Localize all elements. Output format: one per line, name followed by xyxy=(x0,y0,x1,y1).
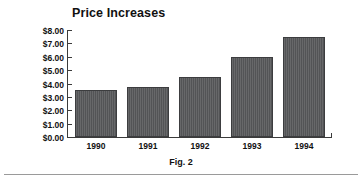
y-axis-tick xyxy=(67,124,72,125)
bar-1990[interactable] xyxy=(75,90,117,137)
y-axis-label: $3.00 xyxy=(22,93,64,103)
y-axis-label: $2.00 xyxy=(22,106,64,116)
y-axis-tick xyxy=(67,43,72,44)
y-axis-label: $0.00 xyxy=(22,133,64,143)
x-axis-label-1993: 1993 xyxy=(231,141,273,151)
bar-1992[interactable] xyxy=(179,77,221,137)
y-axis-label: $8.00 xyxy=(22,26,64,36)
bar-1993[interactable] xyxy=(231,57,273,137)
y-axis-label: $5.00 xyxy=(22,66,64,76)
y-axis-tick xyxy=(67,97,72,98)
x-axis-label-1991: 1991 xyxy=(127,141,169,151)
y-axis-label: $6.00 xyxy=(22,53,64,63)
x-axis-label-1992: 1992 xyxy=(179,141,221,151)
figure-caption: Fig. 2 xyxy=(0,157,362,167)
y-axis-label: $4.00 xyxy=(22,80,64,90)
figure-container: Price Increases $8.00 $7.00 $6.00 $5.00 … xyxy=(0,0,362,182)
bar-chart-plot-area: $8.00 $7.00 $6.00 $5.00 $4.00 $3.00 $2.0… xyxy=(0,0,362,182)
y-axis-tick xyxy=(67,84,72,85)
bar-1991[interactable] xyxy=(127,87,169,137)
y-axis-label: $1.00 xyxy=(22,120,64,130)
y-axis-tick xyxy=(67,30,72,31)
x-axis-label-1994: 1994 xyxy=(283,141,325,151)
x-axis-line xyxy=(67,137,332,138)
y-axis-label: $7.00 xyxy=(22,39,64,49)
bar-1994[interactable] xyxy=(283,37,325,137)
y-axis-tick xyxy=(67,57,72,58)
y-axis-tick xyxy=(67,70,72,71)
bottom-divider xyxy=(4,174,358,175)
x-axis-label-1990: 1990 xyxy=(75,141,117,151)
y-axis-tick xyxy=(67,110,72,111)
x-axis-end-tick xyxy=(331,133,332,138)
y-axis-tick xyxy=(67,137,72,138)
